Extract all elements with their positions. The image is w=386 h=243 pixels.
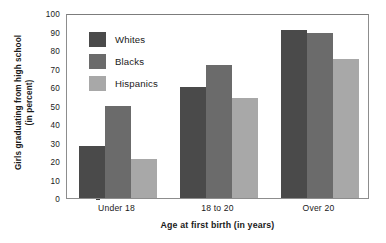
y-axis-tick-label: 80 bbox=[34, 47, 60, 56]
bar bbox=[333, 59, 359, 198]
y-axis-tick-label: 100 bbox=[34, 10, 60, 19]
x-axis-tick-label: Over 20 bbox=[303, 203, 335, 213]
legend-item: Blacks bbox=[89, 50, 158, 72]
bar bbox=[232, 98, 258, 198]
y-axis-tick-label: 20 bbox=[34, 158, 60, 167]
bar-chart: Girls graduating from high school (in pe… bbox=[0, 0, 386, 243]
x-axis-tick-labels: Under 1818 to 20Over 20 bbox=[66, 203, 369, 217]
legend-label: Whites bbox=[115, 34, 145, 45]
legend-swatch bbox=[89, 76, 106, 91]
bar-group bbox=[180, 15, 258, 198]
x-axis-title: Age at first birth (in years) bbox=[66, 220, 369, 230]
chart-legend: WhitesBlacksHispanics bbox=[89, 28, 158, 94]
y-axis-tick-label: 70 bbox=[34, 65, 60, 74]
y-axis-title: Girls graduating from high school (in pe… bbox=[14, 3, 35, 203]
legend-label: Blacks bbox=[115, 56, 144, 67]
bar bbox=[79, 146, 105, 198]
y-axis-tick-label: 40 bbox=[34, 121, 60, 130]
y-axis-tick-label: 60 bbox=[34, 84, 60, 93]
y-axis-tick-mark bbox=[96, 199, 100, 200]
y-axis-tick-labels: 0102030405060708090100 bbox=[34, 0, 60, 243]
legend-item: Hispanics bbox=[89, 72, 158, 94]
y-axis-tick-label: 10 bbox=[34, 176, 60, 185]
y-axis-tick-label: 90 bbox=[34, 28, 60, 37]
y-axis-title-line-2: (in percent) bbox=[24, 3, 35, 203]
x-axis-tick-label: 18 to 20 bbox=[201, 203, 234, 213]
y-axis-title-line-1: Girls graduating from high school bbox=[14, 3, 25, 203]
bar-group bbox=[281, 15, 359, 198]
legend-swatch bbox=[89, 54, 106, 69]
bar bbox=[105, 106, 131, 199]
x-axis-tick-label: Under 18 bbox=[98, 203, 135, 213]
plot-area: WhitesBlacksHispanics bbox=[66, 14, 369, 199]
bar bbox=[206, 65, 232, 198]
legend-swatch bbox=[89, 32, 106, 47]
y-axis-tick-label: 30 bbox=[34, 139, 60, 148]
legend-item: Whites bbox=[89, 28, 158, 50]
y-axis-tick-label: 0 bbox=[34, 195, 60, 204]
bar bbox=[307, 33, 333, 198]
y-axis-tick-label: 50 bbox=[34, 102, 60, 111]
bar bbox=[180, 87, 206, 198]
legend-label: Hispanics bbox=[115, 78, 158, 89]
bar bbox=[131, 159, 157, 198]
bar bbox=[281, 30, 307, 198]
